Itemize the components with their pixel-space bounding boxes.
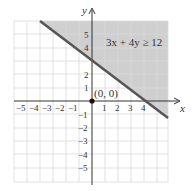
svg-text:−5: −5 <box>16 103 26 113</box>
svg-text:−2: −2 <box>55 103 65 113</box>
svg-text:−2: −2 <box>78 123 88 133</box>
svg-text:−4: −4 <box>29 103 39 113</box>
svg-text:−3: −3 <box>42 103 52 113</box>
y-axis-label: y <box>81 4 87 16</box>
svg-text:−5: −5 <box>78 163 88 173</box>
inequality-label: 3x + 4y ≥ 12 <box>106 36 162 48</box>
svg-text:1: 1 <box>102 103 107 113</box>
svg-text:3: 3 <box>128 103 133 113</box>
inequality-graph: x y 3x + 4y ≥ 12 (0, 0) −5 −4 −3 −2 −1 1… <box>0 0 193 191</box>
test-point-marker <box>89 98 94 103</box>
svg-text:−4: −4 <box>78 150 88 160</box>
svg-text:4: 4 <box>84 43 89 53</box>
x-axis-label: x <box>179 102 185 114</box>
svg-text:2: 2 <box>84 70 89 80</box>
svg-text:1: 1 <box>84 83 89 93</box>
svg-text:−1: −1 <box>68 103 78 113</box>
svg-text:−1: −1 <box>78 110 88 120</box>
svg-text:2: 2 <box>115 103 120 113</box>
svg-text:−3: −3 <box>78 136 88 146</box>
svg-text:4: 4 <box>141 103 146 113</box>
test-point-label: (0, 0) <box>94 87 118 100</box>
svg-text:5: 5 <box>84 30 89 40</box>
